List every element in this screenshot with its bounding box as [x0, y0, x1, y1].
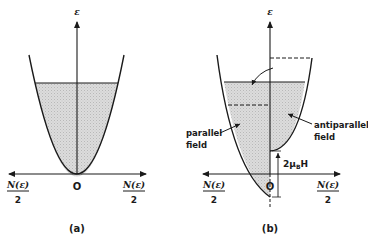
- energy-axis-label: ε: [267, 7, 273, 17]
- svg-text:2: 2: [211, 195, 217, 205]
- svg-text:2μBH: 2μBH: [283, 159, 308, 170]
- svg-text:parallel: parallel: [186, 128, 222, 138]
- left-axis-label: N(ε) 2: [6, 180, 29, 205]
- panel-b: 2μBH parallel field antiparallel field ε…: [186, 7, 368, 234]
- pauli-paramagnetism-diagram: ε O N(ε) 2 N(ε) 2 (a): [0, 0, 368, 242]
- right-axis-label: N(ε) 2: [316, 180, 339, 205]
- svg-text:field: field: [186, 140, 207, 150]
- svg-text:N(ε): N(ε): [6, 180, 29, 190]
- energy-axis-label: ε: [74, 7, 80, 17]
- origin-label: O: [73, 181, 82, 192]
- panel-a: ε O N(ε) 2 N(ε) 2 (a): [6, 7, 146, 234]
- antiparallel-field-label: antiparallel field: [288, 114, 368, 142]
- panel-b-caption: (b): [262, 223, 278, 234]
- svg-text:N(ε): N(ε): [122, 180, 145, 190]
- parallel-field-label: parallel field: [186, 124, 240, 150]
- svg-text:N(ε): N(ε): [202, 180, 225, 190]
- svg-text:2: 2: [325, 195, 331, 205]
- left-axis-label: N(ε) 2: [202, 180, 225, 205]
- svg-text:antiparallel: antiparallel: [314, 120, 368, 130]
- svg-text:N(ε): N(ε): [316, 180, 339, 190]
- panel-a-caption: (a): [69, 223, 85, 234]
- svg-text:field: field: [314, 132, 335, 142]
- origin-label: O: [266, 181, 275, 192]
- right-axis-label: N(ε) 2: [122, 180, 145, 205]
- parallel-occupied-region: [224, 82, 270, 197]
- svg-text:2: 2: [15, 195, 21, 205]
- svg-text:2: 2: [131, 195, 137, 205]
